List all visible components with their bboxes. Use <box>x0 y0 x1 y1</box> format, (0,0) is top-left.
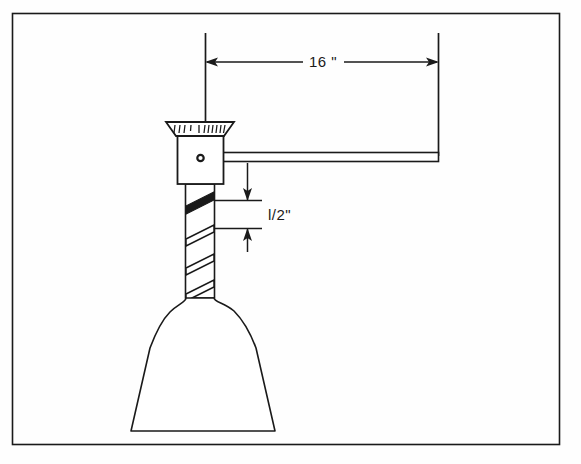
part-horizontal-arm <box>223 153 439 162</box>
part-brush-cap <box>166 122 234 136</box>
arm-body <box>223 153 439 162</box>
dimension-label-16in: 16 " <box>309 53 337 70</box>
dimension-horizontal-16in: 16 " <box>205 33 439 156</box>
bell-outline <box>131 298 275 431</box>
block-center-hole-icon <box>197 155 203 161</box>
drawing-svg: 16 " l/2" <box>0 0 581 464</box>
drawing-frame-border <box>13 14 560 445</box>
technical-drawing-canvas: 16 " l/2" <box>0 0 581 464</box>
part-bell-cone <box>131 298 275 431</box>
part-body-block <box>178 136 224 184</box>
dimension-label-half-inch: l/2" <box>268 206 291 223</box>
part-twisted-shaft <box>186 184 215 301</box>
